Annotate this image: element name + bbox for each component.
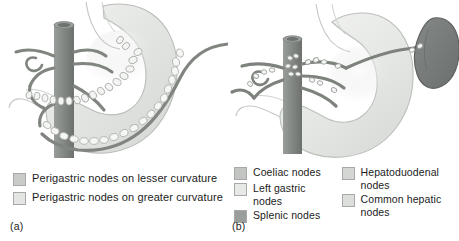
panel-b-illustration: [228, 0, 459, 170]
panel-b-caption: (b): [232, 220, 245, 232]
legend-label-coeliac: Coeliac nodes: [253, 166, 321, 179]
lymphatic-drainage-figure: Perigastric nodes on lesser curvature Pe…: [0, 0, 459, 241]
legend-item-greater-curvature: Perigastric nodes on greater curvature: [13, 191, 223, 205]
panel-b-legend-right-column: Hepatoduodenal nodes Common hepatic node…: [338, 166, 459, 225]
panel-b-legend: Coeliac nodes Left gastric nodes Splenic…: [228, 166, 459, 225]
panel-a: Perigastric nodes on lesser curvature Pe…: [0, 0, 228, 241]
artery-loop-a: [26, 58, 42, 71]
legend-item-coeliac: Coeliac nodes: [234, 166, 338, 180]
duodenum-b: [236, 106, 280, 117]
legend-item-splenic: Splenic nodes: [234, 209, 338, 223]
aorta-b: [283, 36, 302, 154]
legend-label-splenic: Splenic nodes: [253, 209, 320, 222]
legend-item-lesser-curvature: Perigastric nodes on lesser curvature: [13, 172, 223, 186]
panel-b: Coeliac nodes Left gastric nodes Splenic…: [228, 0, 459, 241]
legend-item-common-hepatic: Common hepatic nodes: [342, 193, 459, 218]
panel-b-legend-left-column: Coeliac nodes Left gastric nodes Splenic…: [228, 166, 338, 225]
legend-swatch-lesser-curvature: [13, 173, 26, 186]
legend-swatch-greater-curvature: [13, 192, 26, 205]
legend-label-hepatoduodenal: Hepatoduodenal nodes: [361, 166, 439, 191]
legend-label-lesser-curvature: Perigastric nodes on lesser curvature: [32, 172, 217, 185]
legend-swatch-hepatoduodenal: [342, 167, 355, 180]
legend-label-left-gastric: Left gastric nodes: [253, 182, 338, 207]
legend-item-hepatoduodenal: Hepatoduodenal nodes: [342, 166, 459, 191]
legend-label-greater-curvature: Perigastric nodes on greater curvature: [32, 191, 223, 204]
panel-a-caption: (a): [10, 220, 23, 232]
legend-label-common-hepatic: Common hepatic nodes: [361, 193, 442, 218]
panel-a-illustration: [0, 0, 228, 170]
legend-swatch-left-gastric: [234, 183, 247, 196]
legend-swatch-coeliac: [234, 167, 247, 180]
panel-a-legend: Perigastric nodes on lesser curvature Pe…: [0, 172, 228, 210]
legend-item-left-gastric: Left gastric nodes: [234, 182, 338, 207]
legend-swatch-common-hepatic: [342, 194, 355, 207]
spleen-b: [415, 18, 459, 89]
